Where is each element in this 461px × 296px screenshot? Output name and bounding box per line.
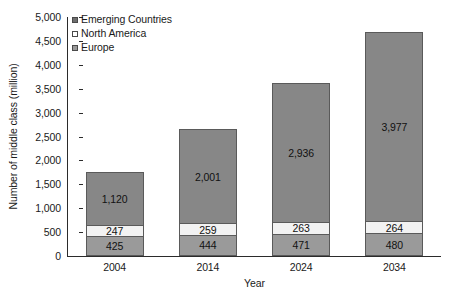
y-axis-tick-label: 0	[16, 250, 61, 262]
bar-value-label: 2,936	[288, 147, 314, 159]
legend-swatch-icon	[72, 45, 78, 51]
legend-item-label: Emerging Countries	[81, 13, 172, 26]
legend-item-europe[interactable]: Europe	[72, 41, 172, 54]
y-axis-tick-label: 1,500	[16, 178, 61, 190]
bar-value-label: 264	[386, 222, 403, 234]
y-axis-tick-label: 3,000	[16, 107, 61, 119]
bar-group[interactable]: 2,936263471	[272, 84, 330, 256]
bar-segment-emerging-countries[interactable]: 2,936	[272, 83, 330, 223]
bar-group[interactable]: 3,977264480	[365, 33, 423, 256]
x-axis-title: Year	[68, 277, 441, 290]
bar-group[interactable]: 2,001259444	[179, 130, 237, 256]
bar-value-label: 471	[293, 239, 310, 251]
bar-segment-europe[interactable]: 471	[272, 234, 330, 257]
y-axis-tick-labels: 5,0004,5004,0003,5003,0002,5002,0001,500…	[16, 9, 61, 264]
y-axis-tick-label: 2,000	[16, 154, 61, 166]
bar-segment-emerging-countries[interactable]: 3,977	[365, 32, 423, 222]
bar-value-label: 1,120	[102, 193, 128, 205]
bar-value-label: 3,977	[381, 121, 407, 133]
bar-value-label: 425	[106, 240, 123, 252]
bar-value-label: 480	[386, 239, 403, 251]
y-axis-tick-label: 4,500	[16, 35, 61, 47]
bar-value-label: 259	[199, 224, 216, 236]
y-axis-tick-label: 2,500	[16, 131, 61, 143]
bar-segment-europe[interactable]: 444	[179, 235, 237, 256]
bar-value-label: 444	[199, 239, 216, 251]
legend-swatch-icon	[72, 17, 78, 23]
legend-item-label: Europe	[81, 41, 114, 54]
bar-value-label: 2,001	[195, 171, 221, 183]
x-axis-line	[67, 256, 441, 257]
y-axis-tick-label: 4,000	[16, 59, 61, 71]
bar-segment-emerging-countries[interactable]: 2,001	[179, 129, 237, 225]
bar-value-label: 263	[293, 222, 310, 234]
y-axis-tick-label: 1,000	[16, 202, 61, 214]
legend-item-emerging[interactable]: Emerging Countries	[72, 13, 172, 26]
bar-segment-europe[interactable]: 480	[365, 233, 423, 256]
bar-group[interactable]: 1,120247425	[86, 173, 144, 256]
y-axis-tick-label: 3,500	[16, 83, 61, 95]
x-axis-tick-label: 2014	[179, 261, 237, 274]
x-axis-tick-label: 2034	[365, 261, 423, 274]
chart-legend: Emerging CountriesNorth AmericaEurope	[72, 13, 172, 55]
y-axis-tick-label: 5,000	[16, 11, 61, 23]
stacked-bar-chart: Number of middle class (million) 5,0004,…	[0, 0, 461, 296]
y-axis-tick-label: 500	[16, 226, 61, 238]
bar-segment-europe[interactable]: 425	[86, 236, 144, 256]
x-axis-tick-label: 2024	[272, 261, 330, 274]
legend-item-label: North America	[81, 27, 146, 40]
legend-item-northamerica[interactable]: North America	[72, 27, 172, 40]
x-axis-tick-label: 2004	[86, 261, 144, 274]
bar-segment-emerging-countries[interactable]: 1,120	[86, 172, 144, 226]
legend-swatch-icon	[72, 31, 78, 37]
